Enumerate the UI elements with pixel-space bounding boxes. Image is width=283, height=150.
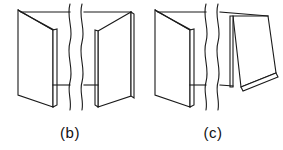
panel-b-right-face	[98, 12, 131, 107]
caption-label-b: (b)	[0, 124, 140, 141]
caption-label-c: (c)	[143, 124, 283, 141]
panel-b-right-outer-edge	[131, 12, 134, 98]
panel-group-c	[155, 4, 278, 110]
panel-c-left-spine-edge	[190, 29, 194, 107]
panel-b-break-wave-left-icon	[69, 4, 71, 110]
panel-c-top-connector-right	[220, 12, 268, 16]
panel-c-break-wave-left-icon	[205, 4, 207, 110]
figure-container: (b) (c)	[0, 0, 283, 150]
panel-b-break-wave-right-icon	[81, 4, 83, 110]
panel-b-left-spine-edge	[53, 29, 57, 107]
panel-c-break-wave-right-icon	[217, 4, 219, 110]
panel-c-left-face	[155, 10, 190, 107]
panel-c-right-spine-edge	[230, 16, 233, 87]
panel-group-b	[18, 4, 134, 110]
panel-b-left-face	[18, 10, 53, 107]
panel-b-right-spine-edge	[95, 30, 98, 107]
